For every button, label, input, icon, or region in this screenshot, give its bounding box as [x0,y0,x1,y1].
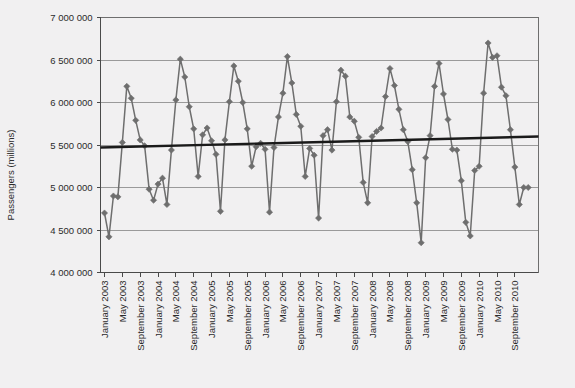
x-tick-label: May 2004 [170,281,181,323]
passenger-traffic-chart: 4 000 0004 500 0005 000 0005 500 0006 00… [0,0,575,388]
x-tick-label: May 2006 [277,281,288,323]
y-tick-label: 4 000 000 [50,267,92,278]
y-tick-label: 7 000 000 [50,12,92,23]
x-tick-label: May 2007 [331,281,342,323]
x-tick-label: January 2009 [420,281,431,339]
y-tick-label: 6 000 000 [50,97,92,108]
chart-canvas: 4 000 0004 500 0005 000 0005 500 0006 00… [0,0,575,388]
x-tick-label: September 2010 [509,281,520,351]
x-tick-label: September 2008 [402,281,413,351]
x-tick-label: January 2005 [206,281,217,339]
y-tick-label: 4 500 000 [50,225,92,236]
y-tick-label: 5 000 000 [50,182,92,193]
x-tick-label: May 2005 [224,281,235,323]
x-tick-label: January 2003 [99,281,110,339]
x-tick-label: May 2010 [492,281,503,323]
x-tick-label: September 2007 [349,281,360,351]
x-tick-label: May 2008 [384,281,395,323]
x-tick-label: September 2009 [456,281,467,351]
x-tick-label: January 2008 [367,281,378,339]
x-tick-label: September 2006 [295,281,306,351]
x-tick-label: September 2004 [188,281,199,351]
x-tick-label: May 2003 [117,281,128,323]
x-tick-label: January 2004 [153,281,164,339]
y-tick-label: 5 500 000 [50,140,92,151]
x-tick-label: January 2006 [260,281,271,339]
x-tick-label: September 2003 [135,281,146,351]
x-tick-label: January 2007 [313,281,324,339]
x-tick-label: September 2005 [242,281,253,351]
x-tick-label: May 2009 [438,281,449,323]
x-tick-label: January 2010 [474,281,485,339]
y-tick-label: 6 500 000 [50,55,92,66]
y-axis-title: Passengers (millions) [5,130,16,221]
